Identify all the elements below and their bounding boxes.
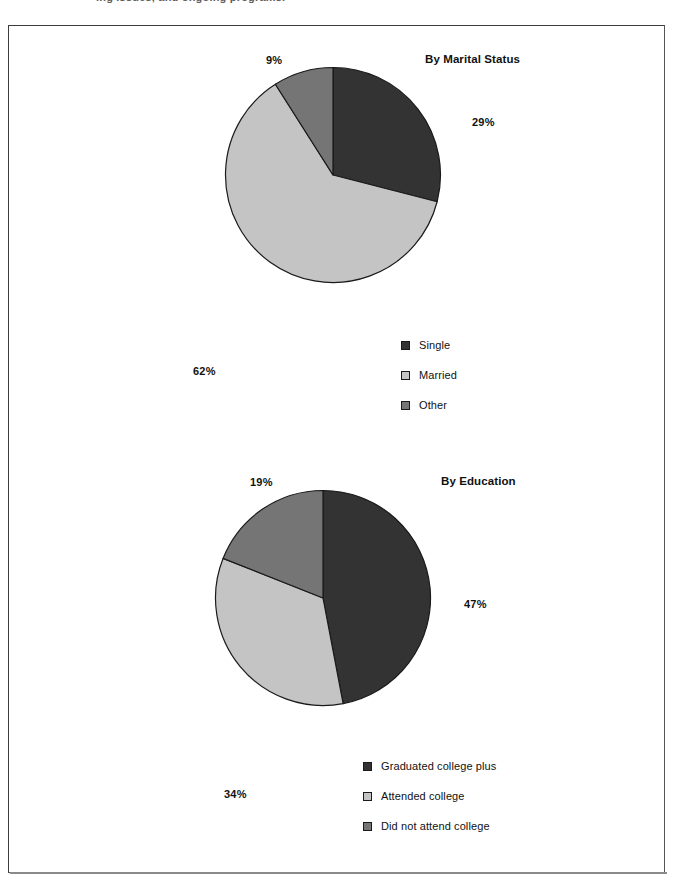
legend-swatch-icon-graduated-college-plus [363, 762, 372, 771]
pie-value-label-other: 9% [266, 54, 282, 66]
legend-swatch-icon-other [401, 401, 410, 410]
legend-item-attended-college[interactable]: Attended college [363, 781, 529, 811]
legend-item-married[interactable]: Married [401, 360, 507, 390]
chart-title-education: By Education [441, 475, 516, 487]
legend-education: Graduated college plus Attended college … [357, 746, 537, 846]
pie-slice-graduated-college-plus[interactable] [323, 491, 431, 704]
legend-label-married: Married [419, 369, 457, 381]
pie-graphic-marital-status [224, 66, 442, 284]
pie-chart-by-education: By Education 19% 47% 34% Graduated colle… [0, 446, 657, 846]
pie-value-label-married: 62% [193, 365, 216, 377]
legend-label-graduated-college-plus: Graduated college plus [381, 760, 496, 772]
legend-swatch-icon-did-not-attend-college [363, 822, 372, 831]
legend-label-attended-college: Attended college [381, 790, 465, 802]
legend-swatch-icon-single [401, 341, 410, 350]
clipped-top-caption: ing issues, and ongoing programs. [96, 0, 516, 5]
legend-item-did-not-attend-college[interactable]: Did not attend college [363, 811, 529, 841]
legend-label-did-not-attend-college: Did not attend college [381, 820, 490, 832]
legend-swatch-icon-married [401, 371, 410, 380]
legend-swatch-icon-attended-college [363, 792, 372, 801]
legend-label-single: Single [419, 339, 450, 351]
legend-item-graduated-college-plus[interactable]: Graduated college plus [363, 751, 529, 781]
legend-marital-status: Single Married Other [395, 325, 515, 425]
pie-value-label-graduated-college-plus: 47% [464, 598, 487, 610]
pie-chart-by-marital-status: By Marital Status 9% 29% 62% Single Marr… [0, 28, 657, 428]
legend-item-single[interactable]: Single [401, 330, 507, 360]
chart-title-marital-status: By Marital Status [425, 53, 520, 65]
pie-svg-education [214, 489, 432, 707]
legend-label-other: Other [419, 399, 447, 411]
pie-svg-marital-status [224, 66, 442, 284]
pie-value-label-attended-college: 34% [224, 788, 247, 800]
pie-graphic-education [214, 489, 432, 707]
pie-value-label-single: 29% [472, 116, 495, 128]
pie-value-label-did-not-attend-college: 19% [250, 476, 273, 488]
legend-item-other[interactable]: Other [401, 390, 507, 420]
